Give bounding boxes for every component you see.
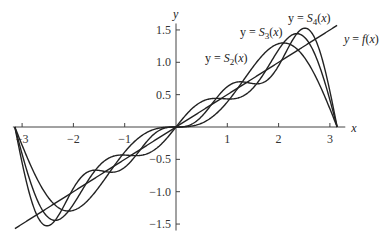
fourier-partial-sums-chart: xy−3−2−11231.51.00.5−0.5−1.0−1.5 y = S2(… — [0, 0, 392, 242]
y-tick-label: −1.0 — [149, 185, 171, 199]
y-tick-label: 1.5 — [156, 23, 171, 37]
y-tick-label: 0.5 — [156, 88, 171, 102]
x-tick-label: 3 — [327, 132, 333, 146]
y-tick-label: 1.0 — [156, 55, 171, 69]
y-tick-label: −0.5 — [149, 152, 171, 166]
y-tick-label: −1.5 — [149, 217, 171, 231]
curve-label: y = S2(x) — [205, 51, 248, 67]
curve-label: y = f(x) — [343, 32, 379, 46]
x-tick-label: −1 — [118, 132, 131, 146]
curve-label: y = S4(x) — [288, 11, 331, 27]
curve-label: y = S3(x) — [240, 25, 283, 41]
x-tick-label: −2 — [67, 132, 80, 146]
x-tick-label: 2 — [276, 132, 282, 146]
x-tick-label: 1 — [224, 132, 230, 146]
labels: y = S2(x)y = S3(x)y = S4(x)y = f(x) — [205, 11, 379, 67]
y-axis-label: y — [172, 7, 179, 21]
x-axis-label: x — [350, 121, 357, 135]
